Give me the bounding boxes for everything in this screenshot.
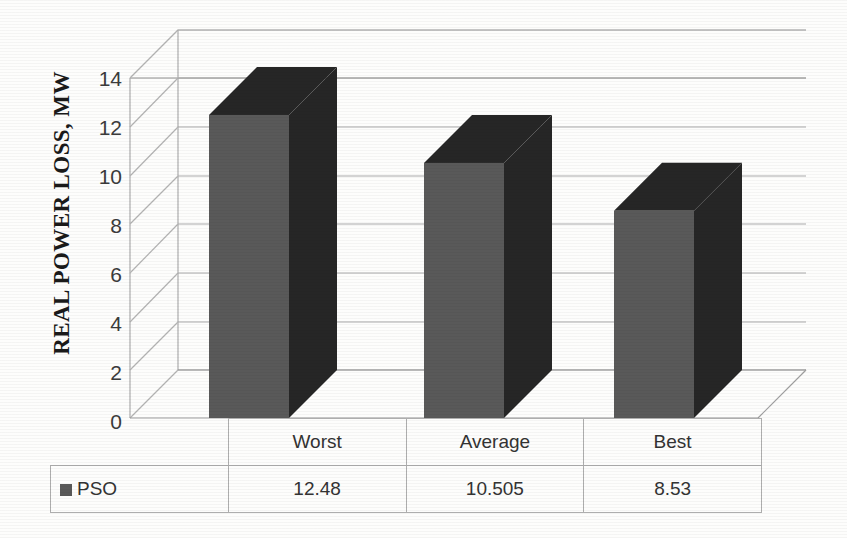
cell-worst: 12.48 [228,466,406,513]
bar-best[interactable] [614,163,742,418]
legend-entry-pso[interactable]: PSO [51,466,229,513]
table-header-average: Average [406,419,584,466]
side-wall-slants [130,78,178,418]
data-table: Worst Average Best PSO 12.48 10.505 8.53 [50,418,762,513]
legend-label-pso: PSO [77,478,117,499]
table-row: PSO 12.48 10.505 8.53 [51,466,762,513]
bar-average[interactable] [424,115,552,418]
cell-best: 8.53 [584,466,762,513]
legend-swatch-icon [60,484,72,496]
table-header-worst: Worst [228,419,406,466]
chart-canvas: REAL POWER LOSS, MW 14 12 10 8 6 4 2 0 [0,0,847,538]
table-header-best: Best [584,419,762,466]
table-header-row: Worst Average Best [51,419,762,466]
table-header-corner [51,419,229,466]
cell-average: 10.505 [406,466,584,513]
bar-worst[interactable] [209,67,337,418]
